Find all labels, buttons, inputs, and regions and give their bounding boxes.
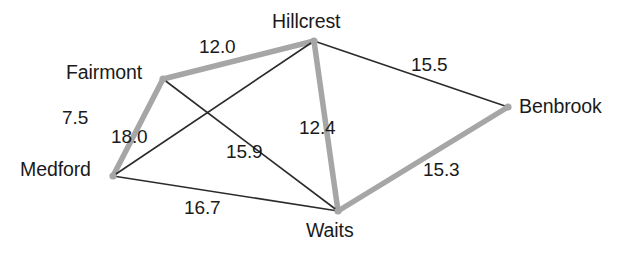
graph-edge (113, 79, 163, 176)
graph-node-dot (159, 75, 166, 82)
graph-node-dot (310, 37, 317, 44)
graph-edge (113, 176, 338, 211)
graph-canvas (0, 0, 619, 257)
graph-node-dot (334, 207, 341, 214)
graph-edge (338, 107, 508, 211)
node-layer (109, 37, 511, 214)
graph-edge (163, 79, 338, 211)
graph-edge (163, 41, 314, 79)
graph-edge (113, 41, 314, 176)
graph-diagram: 12.015.57.512.418.015.915.316.7 Hillcres… (0, 0, 619, 257)
graph-node-dot (504, 103, 511, 110)
edge-layer (113, 41, 508, 211)
graph-node-dot (109, 172, 116, 179)
graph-edge (314, 41, 338, 211)
graph-edge (314, 41, 508, 107)
